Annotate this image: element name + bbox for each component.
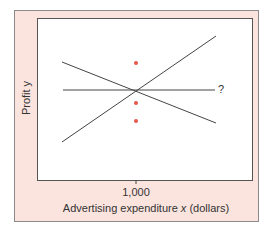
x-tick-label: 1,000: [122, 186, 150, 198]
question-mark-annotation: ?: [218, 83, 224, 95]
decreasing-line: [62, 62, 216, 123]
x-axis-label: Advertising expenditure x (dollars): [63, 202, 229, 214]
increasing-line: [62, 36, 216, 142]
x-axis-label-pre: Advertising expenditure: [63, 202, 181, 214]
data-point: [134, 101, 138, 105]
data-point: [134, 61, 138, 65]
x-axis-label-post: (dollars): [186, 202, 229, 214]
data-point: [134, 119, 138, 123]
y-axis-label: Profit y: [20, 81, 32, 115]
